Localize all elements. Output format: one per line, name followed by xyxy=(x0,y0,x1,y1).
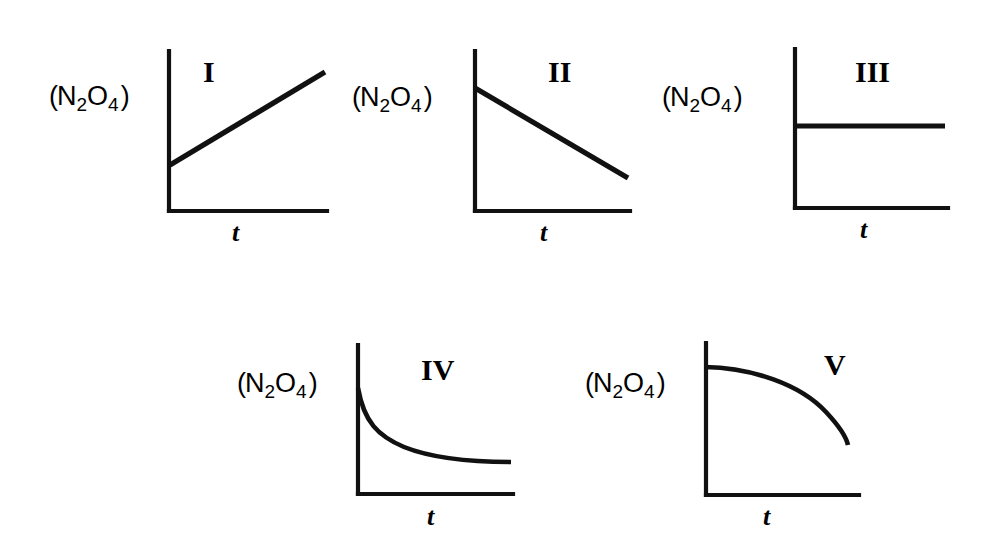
y-axis-label-i: (N2O4) xyxy=(49,83,130,114)
x-axis-label-i: t xyxy=(232,220,239,246)
x-axis-label-iv: t xyxy=(427,504,434,530)
x-axis-label-iii: t xyxy=(860,217,867,243)
paren-close-iv: ) xyxy=(309,368,318,398)
subscript-2-ii: 2 xyxy=(380,95,391,116)
element-n-ii: N xyxy=(360,82,380,112)
y-axis-label-iv: (N2O4) xyxy=(237,370,318,401)
plot-panel-i xyxy=(167,45,342,225)
data-series-ii xyxy=(475,88,628,178)
subscript-2-i: 2 xyxy=(77,94,88,115)
subscript-4-v: 4 xyxy=(644,381,655,402)
subscript-4-ii: 4 xyxy=(411,95,422,116)
paren-close-ii: ) xyxy=(424,82,433,112)
panel-numeral-v: V xyxy=(824,350,846,380)
element-o-ii: O xyxy=(390,82,411,112)
concentration-vs-time-figure: (N2O4) I t (N2O4) II t (N2O4) III t xyxy=(0,0,984,546)
subscript-4-i: 4 xyxy=(108,94,119,115)
x-axis-label-ii: t xyxy=(540,220,547,246)
panel-numeral-i: I xyxy=(203,57,215,87)
panel-numeral-iv: IV xyxy=(421,355,454,385)
y-axis-label-iii: (N2O4) xyxy=(662,84,743,115)
element-n-v: N xyxy=(593,368,613,398)
element-n-iii: N xyxy=(670,82,690,112)
element-o-iv: O xyxy=(275,368,296,398)
subscript-2-iii: 2 xyxy=(690,95,701,116)
subscript-4-iii: 4 xyxy=(721,95,732,116)
plot-axes-v xyxy=(704,340,879,515)
data-series-i xyxy=(170,72,325,165)
y-axis-label-ii: (N2O4) xyxy=(352,84,433,115)
paren-close-v: ) xyxy=(657,368,666,398)
x-axis-label-v: t xyxy=(763,504,770,530)
subscript-2-iv: 2 xyxy=(265,381,276,402)
subscript-2-v: 2 xyxy=(613,381,624,402)
subscript-4-iv: 4 xyxy=(296,381,307,402)
panel-numeral-iii: III xyxy=(855,57,890,87)
panel-numeral-ii: II xyxy=(548,57,571,87)
paren-close-i: ) xyxy=(121,81,130,111)
plot-panel-v xyxy=(704,340,879,515)
y-axis-label-v: (N2O4) xyxy=(585,370,666,401)
element-o-i: O xyxy=(87,81,108,111)
element-n-iv: N xyxy=(245,368,265,398)
element-o-iii: O xyxy=(700,82,721,112)
plot-axes-i xyxy=(167,45,342,225)
paren-close-iii: ) xyxy=(734,82,743,112)
data-series-iv xyxy=(358,388,511,462)
element-o-v: O xyxy=(623,368,644,398)
element-n-i: N xyxy=(57,81,77,111)
